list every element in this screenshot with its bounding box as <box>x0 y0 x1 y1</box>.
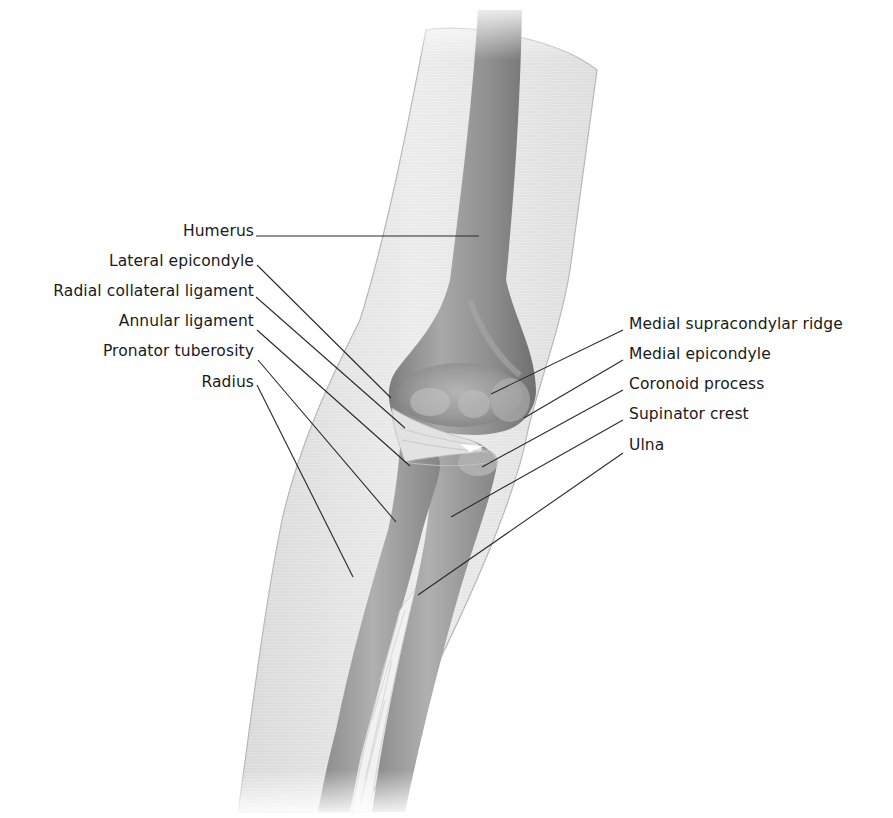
label-lateral-epicondyle: Lateral epicondyle <box>109 252 254 270</box>
label-coronoid-process: Coronoid process <box>629 375 764 393</box>
label-supinator-crest: Supinator crest <box>629 405 749 423</box>
label-ulna: Ulna <box>629 436 664 454</box>
label-pronator-tuberosity: Pronator tuberosity <box>103 342 254 360</box>
label-annular-ligament: Annular ligament <box>119 312 254 330</box>
label-humerus: Humerus <box>183 222 254 240</box>
label-radius: Radius <box>201 373 254 391</box>
label-medial-epicondyle: Medial epicondyle <box>629 345 771 363</box>
label-medial-supracondylar-ridge: Medial supracondylar ridge <box>629 315 843 333</box>
elbow-anatomy-illustration <box>0 0 893 818</box>
label-radial-collateral-ligament: Radial collateral ligament <box>53 282 254 300</box>
